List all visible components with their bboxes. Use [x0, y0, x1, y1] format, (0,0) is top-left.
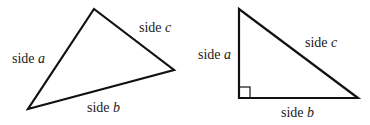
label-prefix: side: [198, 47, 221, 62]
label-variable: a: [38, 51, 45, 66]
label-variable: b: [307, 105, 314, 120]
right-side-c-label: side c: [305, 36, 337, 50]
label-variable: c: [331, 35, 337, 50]
label-variable: b: [113, 100, 120, 115]
label-prefix: side: [12, 51, 35, 66]
right-side-b-label: side b: [281, 106, 314, 120]
left-side-c-label: side c: [139, 21, 171, 35]
right-angle-marker-icon: [239, 87, 250, 98]
label-prefix: side: [305, 35, 328, 50]
left-side-b-label: side b: [87, 101, 120, 115]
left-side-a-label: side a: [12, 52, 45, 66]
label-prefix: side: [139, 20, 162, 35]
right-triangle: [239, 9, 358, 98]
label-prefix: side: [87, 100, 110, 115]
label-variable: c: [165, 20, 171, 35]
label-prefix: side: [281, 105, 304, 120]
label-variable: a: [224, 47, 231, 62]
right-side-a-label: side a: [198, 48, 231, 62]
triangles-diagram: [0, 0, 370, 125]
